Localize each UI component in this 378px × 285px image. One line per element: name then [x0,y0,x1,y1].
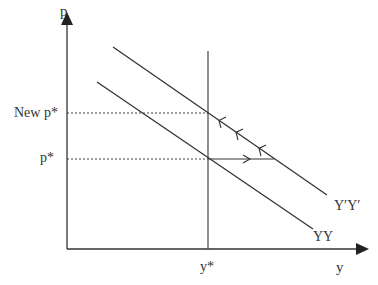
y-star-label: y* [200,260,214,274]
y-axis-label: p [60,4,68,19]
p-star-label: p* [40,151,54,165]
y-prime-y-prime-label: Y′Y′ [334,199,360,213]
x-axis [67,243,369,255]
y-prime-y-prime-curve [113,47,327,195]
new-p-star-label: New p* [14,106,58,120]
x-axis-arrow-icon [356,243,369,255]
y-axis [61,12,73,249]
x-axis-label: y [336,260,344,275]
yy-curve [97,82,313,229]
yy-label: YY [313,230,333,244]
